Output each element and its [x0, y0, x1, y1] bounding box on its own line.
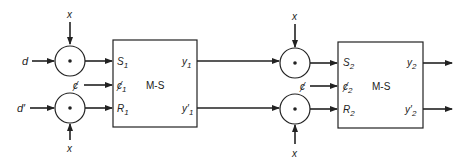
d-input-label: d	[22, 55, 29, 67]
port-clock1: ȼ1	[116, 80, 126, 94]
diagram-canvas: x d ȼ d′ x M-S S1 ȼ1 R1 y1 y′1	[0, 0, 464, 167]
port-r2: R2	[343, 104, 355, 118]
ms-title-1: M-S	[146, 80, 165, 91]
port-r1: R1	[117, 103, 129, 117]
stage-1: x d ȼ d′ x M-S S1 ȼ1 R1 y1 y′1	[17, 9, 197, 154]
port-y1: y1	[181, 56, 191, 70]
x-bottom-label-2: x	[291, 148, 298, 159]
port-y1-prime: y′1	[181, 103, 193, 117]
port-clock2: ȼ2	[342, 81, 353, 95]
clock-label-1: ȼ	[72, 80, 79, 91]
clock-label-2: ȼ	[299, 81, 306, 92]
port-s2: S2	[343, 57, 355, 71]
port-y2: y2	[406, 57, 417, 71]
gate-dot-icon	[293, 107, 297, 111]
port-s1: S1	[117, 56, 128, 70]
gate-dot-icon	[68, 106, 72, 110]
gate-dot-icon	[68, 59, 72, 63]
x-top-label-1: x	[66, 9, 73, 20]
x-top-label-2: x	[291, 11, 298, 22]
x-bottom-label-1: x	[66, 143, 73, 154]
port-y2-prime: y′2	[404, 104, 417, 118]
d-prime-input-label: d′	[17, 102, 26, 114]
gate-dot-icon	[293, 61, 297, 65]
ms-title-2: M-S	[372, 81, 391, 92]
stage-2: x ȼ x M-S S2 ȼ2 R2 y2 y′2	[280, 11, 452, 159]
